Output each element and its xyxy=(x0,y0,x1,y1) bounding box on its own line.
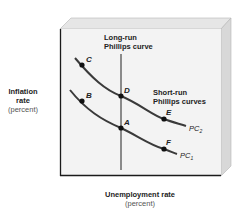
long-run-label-line1: Long-run xyxy=(104,33,137,42)
point-label-a: A xyxy=(123,118,130,127)
point-e xyxy=(161,116,166,121)
point-label-c: C xyxy=(86,55,92,64)
box-top-bevel xyxy=(60,18,231,29)
y-axis-unit: (percent) xyxy=(0,105,46,114)
point-f xyxy=(161,146,166,151)
point-a xyxy=(118,125,123,130)
short-run-label-line2: Phillips curves xyxy=(153,97,206,106)
box-side-bevel xyxy=(221,18,231,176)
x-axis-unit: (percent) xyxy=(90,199,190,208)
short-run-label-line1: Short-run xyxy=(153,88,188,97)
point-label-e: E xyxy=(166,108,172,117)
y-axis-title-line2: rate xyxy=(0,96,46,105)
point-c xyxy=(79,62,84,67)
point-label-d: D xyxy=(124,86,130,95)
point-label-b: B xyxy=(86,91,92,100)
y-axis-title-line1: Inflation xyxy=(0,87,46,96)
x-axis-label: Unemployment rate (percent) xyxy=(90,190,190,208)
y-axis-label: Inflation rate (percent) xyxy=(0,87,46,114)
long-run-label-line2: Phillips curve xyxy=(104,42,153,51)
x-axis-title: Unemployment rate xyxy=(90,190,190,199)
point-d xyxy=(118,93,123,98)
point-b xyxy=(79,98,84,103)
